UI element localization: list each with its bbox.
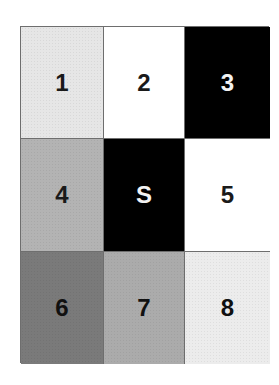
cell-label: S [136, 183, 152, 207]
cell-label: 1 [55, 71, 68, 95]
neighborhood-grid: 1 2 3 4 S 5 6 7 8 [20, 26, 269, 363]
cell-label: 4 [55, 183, 68, 207]
cell-5: 5 [185, 139, 270, 252]
cell-label: 5 [221, 183, 234, 207]
cell-label: 2 [137, 71, 150, 95]
cell-6: 6 [21, 252, 104, 364]
cell-label: 7 [137, 296, 150, 320]
cell-label: 3 [221, 71, 234, 95]
cell-4: 4 [21, 139, 104, 252]
cell-center-s: S [104, 139, 185, 252]
cell-label: 6 [55, 296, 68, 320]
cell-2: 2 [104, 27, 185, 139]
cell-3: 3 [185, 27, 270, 139]
cell-1: 1 [21, 27, 104, 139]
cell-8: 8 [185, 252, 270, 364]
cell-label: 8 [221, 296, 234, 320]
cell-7: 7 [104, 252, 185, 364]
